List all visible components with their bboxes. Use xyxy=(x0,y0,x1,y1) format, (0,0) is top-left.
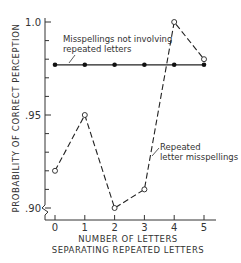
chart: 1.0.95.90012345NUMBER OF LETTERSSEPARATI… xyxy=(0,0,241,263)
legend-repeated-line1: Repeated xyxy=(160,142,201,152)
y-tick-label: .90 xyxy=(25,203,41,214)
filled-point-marker xyxy=(202,62,207,67)
x-tick-label: 0 xyxy=(52,222,58,233)
y-axis-title: PROBABILITY OF CORRECT PERCEPTION xyxy=(11,24,21,213)
filled-point-marker xyxy=(112,62,117,67)
open-point-marker xyxy=(202,57,207,62)
x-tick-label: 3 xyxy=(141,222,147,233)
open-point-marker xyxy=(53,168,58,173)
legend-repeated-line2: letter misspellings xyxy=(160,152,239,162)
y-tick-label: .95 xyxy=(25,110,41,121)
filled-point-marker xyxy=(142,62,147,67)
filled-point-marker xyxy=(83,62,88,67)
y-axis-break xyxy=(42,205,48,220)
filled-point-marker xyxy=(172,62,177,67)
open-point-marker xyxy=(142,187,147,192)
open-point-marker xyxy=(82,113,87,118)
x-tick-label: 4 xyxy=(171,222,177,233)
open-point-marker xyxy=(172,20,177,25)
legend-not-repeated-line2: repeated letters xyxy=(63,44,132,54)
y-tick-label: 1.0 xyxy=(25,17,41,28)
x-tick-label: 1 xyxy=(82,222,88,233)
legend-not-repeated-line1: Misspellings not involving xyxy=(63,34,172,44)
filled-point-marker xyxy=(53,62,58,67)
open-point-marker xyxy=(112,206,117,211)
x-tick-label: 2 xyxy=(111,222,117,233)
annotation-arrow-repeated xyxy=(152,148,159,156)
x-axis-title-line1: NUMBER OF LETTERS xyxy=(78,234,178,244)
x-tick-label: 5 xyxy=(201,222,207,233)
annotation-arrow-not-repeated xyxy=(69,55,75,63)
x-axis-title-line2: SEPARATING REPEATED LETTERS xyxy=(52,245,204,255)
